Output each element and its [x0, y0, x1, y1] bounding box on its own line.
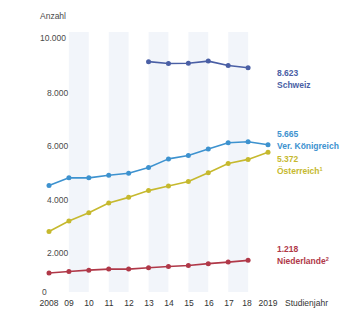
background-band — [109, 32, 129, 292]
data-point — [166, 183, 171, 188]
x-tick-11: 11 — [105, 298, 114, 308]
x-axis-title: Studienjahr — [285, 298, 328, 308]
data-point — [266, 142, 271, 147]
data-point — [66, 269, 71, 274]
data-point — [47, 229, 52, 234]
chart-container: Anzahl 10.000 8.000 6.000 4.000 2.000 0 … — [0, 0, 352, 322]
x-tick-18: 18 — [242, 298, 252, 308]
data-point — [47, 271, 52, 276]
legend-oesterreich-name: Österreich1 — [277, 166, 323, 176]
x-tick-09: 09 — [64, 298, 74, 308]
background-band — [188, 32, 208, 292]
x-tick-2019: 2019 — [259, 298, 278, 308]
data-point — [146, 59, 151, 64]
data-point — [246, 258, 251, 263]
data-point — [226, 260, 231, 265]
line-chart: Anzahl 10.000 8.000 6.000 4.000 2.000 0 … — [0, 0, 352, 322]
legend-niederlande-superscript: 2 — [326, 256, 329, 262]
data-point — [106, 173, 111, 178]
x-axis-labels: 2008 09 10 11 12 13 14 15 16 17 18 2019 … — [40, 298, 329, 308]
data-point — [186, 263, 191, 268]
data-point — [146, 165, 151, 170]
data-point — [106, 201, 111, 206]
background-band — [69, 32, 89, 292]
data-point — [146, 265, 151, 270]
legend-schweiz-name: Schweiz — [277, 80, 311, 90]
y-tick-8000: 8.000 — [47, 88, 69, 98]
data-point — [66, 175, 71, 180]
data-point — [146, 188, 151, 193]
data-point — [186, 61, 191, 66]
legend-uk-name: Ver. Königreich — [277, 141, 339, 151]
data-point — [186, 153, 191, 158]
legend-oesterreich-value: 5.372 — [277, 154, 299, 164]
y-tick-4000: 4.000 — [47, 195, 69, 205]
data-point — [206, 59, 211, 64]
legend-niederlande-name-text: Niederlande — [277, 256, 326, 266]
x-tick-17: 17 — [224, 298, 234, 308]
y-tick-0: 0 — [42, 287, 47, 297]
legend-niederlande-value: 1.218 — [277, 244, 299, 254]
x-tick-16: 16 — [204, 298, 214, 308]
legend: 8.623 Schweiz 5.665 Ver. Königreich 5.37… — [277, 68, 339, 266]
data-point — [126, 195, 131, 200]
data-point — [206, 170, 211, 175]
y-tick-6000: 6.000 — [47, 141, 69, 151]
y-axis-title: Anzahl — [40, 11, 66, 21]
data-point — [126, 171, 131, 176]
data-point — [186, 179, 191, 184]
data-point — [47, 183, 52, 188]
background-band — [149, 32, 169, 292]
x-tick-12: 12 — [124, 298, 134, 308]
data-point — [126, 267, 131, 272]
data-point — [246, 65, 251, 70]
x-tick-14: 14 — [164, 298, 174, 308]
legend-schweiz-value: 8.623 — [277, 68, 299, 78]
data-point — [226, 140, 231, 145]
data-point — [166, 264, 171, 269]
data-point — [266, 150, 271, 155]
data-point — [206, 261, 211, 266]
data-point — [246, 157, 251, 162]
data-point — [206, 147, 211, 152]
legend-oesterreich-name-text: Österreich — [277, 166, 320, 176]
y-tick-10000: 10.000 — [40, 33, 66, 43]
legend-oesterreich-superscript: 1 — [320, 166, 323, 172]
x-tick-13: 13 — [144, 298, 154, 308]
data-point — [66, 219, 71, 224]
data-point — [86, 268, 91, 273]
data-point — [226, 161, 231, 166]
x-tick-10: 10 — [84, 298, 94, 308]
data-point — [166, 61, 171, 66]
background-bands — [69, 32, 248, 292]
x-tick-2008: 2008 — [40, 298, 59, 308]
data-point — [226, 63, 231, 68]
data-point — [246, 139, 251, 144]
data-point — [106, 267, 111, 272]
data-point — [166, 156, 171, 161]
legend-uk-value: 5.665 — [277, 129, 299, 139]
y-tick-2000: 2.000 — [47, 248, 69, 258]
legend-niederlande-name: Niederlande2 — [277, 256, 329, 266]
data-point — [86, 175, 91, 180]
data-point — [86, 210, 91, 215]
x-tick-15: 15 — [184, 298, 194, 308]
